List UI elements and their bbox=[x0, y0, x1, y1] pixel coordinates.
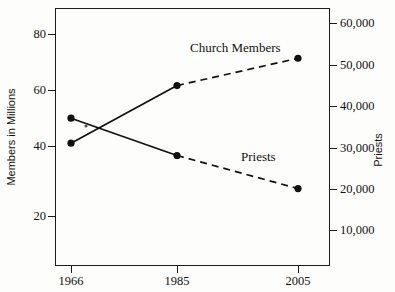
tick-label-right-60000: 60,000 bbox=[340, 17, 374, 30]
tick-label-bottom-1966: 1966 bbox=[59, 275, 84, 288]
series-annotation-priests: Priests bbox=[241, 150, 276, 163]
tick-label-left-40: 40 bbox=[34, 140, 47, 153]
tick-left-20 bbox=[48, 216, 55, 217]
tick-right-40000 bbox=[330, 106, 337, 107]
tick-label-left-60: 60 bbox=[34, 84, 47, 97]
tick-left-60 bbox=[48, 90, 55, 91]
tick-bottom-1985 bbox=[177, 266, 178, 273]
tick-right-10000 bbox=[330, 230, 337, 231]
tick-left-80 bbox=[48, 34, 55, 35]
tick-label-left-80: 80 bbox=[34, 28, 47, 41]
tick-left-40 bbox=[48, 146, 55, 147]
tick-right-50000 bbox=[330, 65, 337, 66]
tick-label-right-40000: 40,000 bbox=[340, 100, 374, 113]
series-annotation-church-members: Church Members bbox=[190, 41, 281, 54]
chart-page: 80 60 40 20 60,000 50,000 40,000 30,000 … bbox=[0, 0, 395, 292]
tick-label-right-20000: 20,000 bbox=[340, 183, 374, 196]
tick-label-bottom-2005: 2005 bbox=[286, 275, 311, 288]
tick-right-60000 bbox=[330, 23, 337, 24]
y-axis-label-right: Priests bbox=[373, 133, 384, 167]
tick-bottom-2005 bbox=[298, 266, 299, 273]
tick-label-left-20: 20 bbox=[34, 210, 47, 223]
tick-label-right-10000: 10,000 bbox=[340, 224, 374, 237]
tick-label-right-30000: 30,000 bbox=[340, 142, 374, 155]
tick-label-bottom-1985: 1985 bbox=[165, 275, 190, 288]
tick-label-right-50000: 50,000 bbox=[340, 59, 374, 72]
tick-bottom-1966 bbox=[71, 266, 72, 273]
y-axis-label-left: Members in Millions bbox=[6, 88, 17, 185]
tick-right-30000 bbox=[330, 148, 337, 149]
tick-right-20000 bbox=[330, 189, 337, 190]
